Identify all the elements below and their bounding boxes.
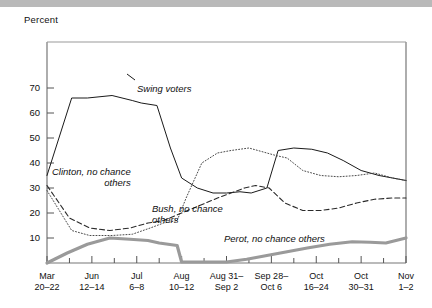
y-tick-label: 40	[18, 157, 40, 168]
series-label-clinton-no-chance-others: Clinton, no chanceothers	[52, 166, 131, 188]
series-label-perot-no-chance-others: Perot, no chance others	[224, 233, 325, 244]
chart-figure: Percent 10203040506070 Mar20–22Jun12–14J…	[0, 0, 432, 308]
series-line-1	[47, 148, 406, 236]
y-tick-label: 30	[18, 182, 40, 193]
y-tick-label: 70	[18, 82, 40, 93]
chart-canvas	[0, 0, 432, 308]
series-label-bush-no-chance-others: Bush, no chanceothers	[152, 203, 223, 225]
y-tick-label: 60	[18, 107, 40, 118]
x-tick-label-line2: 1–2	[375, 282, 432, 293]
swing-voters-leader	[127, 74, 135, 80]
y-tick-label: 10	[18, 232, 40, 243]
y-tick-label: 50	[18, 132, 40, 143]
series-line-2	[47, 186, 406, 231]
x-tick-label-line1: Nov	[375, 271, 432, 282]
series-label-swing-voters: Swing voters	[137, 83, 191, 94]
x-tick-label: Nov1–2	[375, 271, 432, 293]
y-tick-label: 20	[18, 207, 40, 218]
